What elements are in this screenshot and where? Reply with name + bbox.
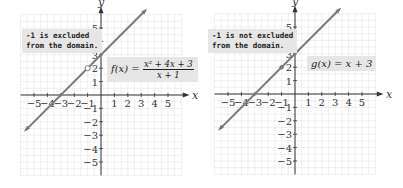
annotation-not-excluded: -1 is not excluded from the domain.: [208, 29, 297, 53]
svg-text:4: 4: [345, 97, 351, 108]
svg-text:2: 2: [92, 63, 98, 74]
svg-text:y: y: [291, 0, 299, 8]
svg-text:5: 5: [165, 98, 171, 109]
svg-text:y: y: [97, 0, 105, 9]
svg-text:−5: −5: [277, 156, 292, 167]
svg-text:1: 1: [286, 76, 292, 87]
svg-text:−4: −4: [277, 143, 292, 154]
svg-text:5: 5: [359, 97, 365, 108]
svg-text:2: 2: [319, 97, 325, 108]
annotation-excluded: -1 is excluded from the domain.: [22, 29, 102, 53]
g-label: g(x) = x + 3: [307, 56, 376, 71]
svg-text:−2: −2: [277, 116, 292, 127]
svg-text:−4: −4: [83, 144, 98, 155]
svg-text:−1: −1: [277, 102, 292, 113]
fraction: x² + 4x + 3x + 1: [143, 59, 194, 80]
svg-text:1: 1: [111, 98, 117, 109]
svg-text:−3: −3: [83, 130, 98, 141]
svg-text:−3: −3: [277, 129, 292, 140]
svg-text:4: 4: [151, 98, 157, 109]
svg-text:−2: −2: [83, 117, 98, 128]
svg-text:1: 1: [92, 77, 98, 88]
denominator: x + 1: [143, 70, 194, 80]
svg-text:−1: −1: [83, 103, 98, 114]
svg-text:2: 2: [125, 98, 131, 109]
svg-text:3: 3: [332, 97, 338, 108]
f-label: f(x) = x² + 4x + 3x + 1: [107, 57, 198, 82]
numerator: x² + 4x + 3: [143, 59, 194, 70]
plot-f: xy−5−4−3−2−112345−5−4−3−2−112345: [21, 0, 200, 175]
plot-g: xy−5−4−3−2−112345−5−4−3−2−112345: [215, 0, 394, 174]
svg-text:x: x: [192, 89, 199, 102]
f-lhs: f(x) =: [111, 63, 140, 74]
svg-text:x: x: [386, 88, 393, 101]
svg-text:−5: −5: [83, 157, 98, 168]
svg-text:3: 3: [138, 98, 144, 109]
svg-text:1: 1: [305, 97, 311, 108]
svg-text:2: 2: [286, 62, 292, 73]
